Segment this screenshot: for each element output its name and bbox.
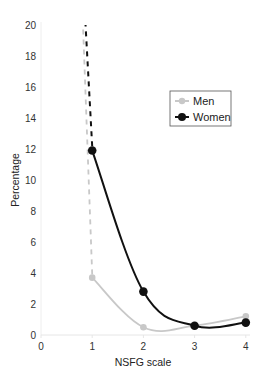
- y-tick-label: 0: [30, 330, 36, 341]
- y-tick-label: 4: [30, 268, 36, 279]
- x-tick-label: 1: [89, 341, 95, 352]
- y-tick-label: 18: [25, 51, 37, 62]
- x-tick-label: 3: [192, 341, 198, 352]
- y-tick-label: 10: [25, 175, 37, 186]
- legend-label-men: Men: [193, 95, 214, 107]
- line-chart: 02468101214161820 01234 NSFG scale Perce…: [0, 0, 263, 378]
- y-axis-title: Percentage: [9, 153, 21, 207]
- y-tick-label: 12: [25, 144, 37, 155]
- y-tick-label: 2: [30, 299, 36, 310]
- y-tick-labels: 02468101214161820: [25, 20, 37, 341]
- y-tick-label: 6: [30, 237, 36, 248]
- data-point-marker: [140, 324, 147, 331]
- series-line: [92, 151, 246, 328]
- series-women: [86, 25, 251, 330]
- series-men: [83, 25, 249, 331]
- legend-marker-men-icon: [179, 98, 185, 104]
- data-point-marker: [190, 321, 199, 330]
- y-tick-label: 20: [25, 20, 37, 31]
- legend-marker-women-icon: [178, 113, 186, 121]
- x-tick-label: 4: [243, 341, 249, 352]
- legend: Men Women: [170, 91, 231, 126]
- data-point-marker: [139, 287, 148, 296]
- y-tick-label: 16: [25, 82, 37, 93]
- x-tick-labels: 01234: [38, 335, 249, 352]
- y-tick-label: 14: [25, 113, 37, 124]
- x-tick-label: 2: [141, 341, 147, 352]
- extrapolation-line: [86, 25, 93, 146]
- data-point-marker: [89, 274, 96, 281]
- legend-label-women: Women: [193, 111, 231, 123]
- series-line: [92, 278, 246, 331]
- x-axis-title: NSFG scale: [115, 356, 172, 368]
- y-tick-label: 8: [30, 206, 36, 217]
- data-point-marker: [242, 318, 251, 327]
- data-point-marker: [88, 146, 97, 155]
- x-tick-label: 0: [38, 341, 44, 352]
